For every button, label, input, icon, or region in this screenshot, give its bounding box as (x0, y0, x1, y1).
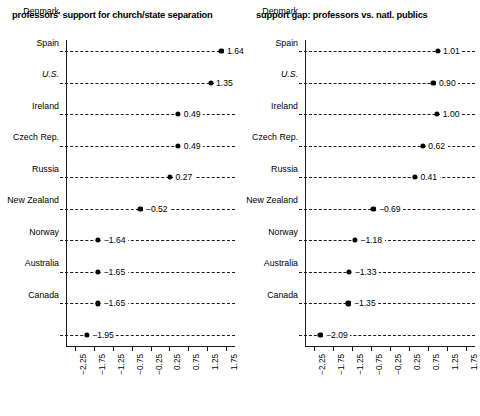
data-point-marker (219, 49, 224, 54)
row-dashed-rule (299, 146, 475, 147)
data-point-marker (95, 301, 100, 306)
data-point-marker (371, 206, 376, 211)
data-point-marker (346, 301, 351, 306)
data-point-marker (347, 269, 352, 274)
x-axis-tick (428, 346, 429, 351)
category-label-czech-rep: Czech Rep. (252, 132, 298, 143)
row-dashed-rule (299, 303, 475, 304)
data-point-value: 0.62 (426, 141, 448, 151)
x-axis-tick-label: −0.75 (136, 354, 145, 375)
data-point-value: 0.49 (181, 141, 203, 151)
data-point-marker (435, 112, 440, 117)
data-point-value: −0.69 (376, 204, 403, 214)
x-axis-tick-label: 1.25 (451, 354, 460, 370)
data-point-value: 0.90 (436, 78, 458, 88)
category-label-spain: Spain (37, 37, 60, 48)
data-point-value: 0.49 (181, 109, 203, 119)
category-label-canada: Canada (28, 290, 59, 301)
row-dashed-rule (299, 177, 475, 178)
data-point-marker (435, 49, 440, 54)
data-point-value: −1.65 (101, 298, 128, 308)
data-point-value: 1.01 (441, 46, 463, 56)
category-label-russia: Russia (271, 164, 298, 175)
data-point-value: −2.09 (323, 330, 350, 340)
category-label-u-s: U.S. (42, 69, 59, 80)
data-point-marker (176, 143, 181, 148)
x-axis-tick (371, 346, 372, 351)
data-point-marker (96, 238, 101, 243)
dot-plot-figure: professors' support for church/state sep… (0, 0, 480, 416)
data-point-marker (208, 80, 213, 85)
row-dashed-rule (60, 146, 235, 147)
plot-area-left: 1.641.350.490.490.27−0.52−1.64−1.65−1.65… (66, 40, 235, 346)
x-axis-tick-label: −0.75 (375, 354, 384, 375)
category-label-u-s: U.S. (281, 69, 298, 80)
data-point-marker (318, 332, 323, 337)
data-point-value: −1.64 (101, 235, 128, 245)
x-axis-tick-label: 0.75 (192, 354, 201, 370)
data-point-marker (431, 80, 436, 85)
row-dashed-rule (60, 272, 235, 273)
data-point-marker (176, 112, 181, 117)
data-point-marker (95, 269, 100, 274)
x-axis-tick (447, 346, 448, 351)
x-axis-tick-label: −1.25 (356, 354, 365, 375)
row-dashed-rule (60, 177, 235, 178)
x-axis-tick (409, 346, 410, 351)
x-axis-tick-label: −0.25 (394, 354, 403, 375)
data-point-value: −1.65 (101, 267, 128, 277)
category-label-norway: Norway (29, 227, 59, 238)
data-point-value: 1.00 (440, 109, 462, 119)
x-axis-tick (226, 346, 227, 351)
x-axis-tick-label: 1.25 (211, 354, 220, 370)
panel-support-gap: support gap: professors vs. natl. public… (240, 0, 480, 416)
category-label-australia: Australia (25, 258, 59, 269)
category-label-ireland: Ireland (271, 100, 298, 111)
category-label-spain: Spain (276, 37, 299, 48)
x-axis-tick-label: 1.75 (470, 354, 479, 370)
category-label-russia: Russia (32, 164, 59, 175)
x-axis-tick-label: −0.25 (155, 354, 164, 375)
row-dashed-rule (299, 272, 475, 273)
category-label-norway: Norway (268, 227, 298, 238)
x-axis-tick-label: 1.75 (230, 354, 239, 370)
data-point-marker (167, 175, 172, 180)
data-point-marker (84, 332, 89, 337)
category-label-ireland: Ireland (32, 100, 59, 111)
data-point-marker (420, 143, 425, 148)
category-label-australia: Australia (264, 258, 298, 269)
category-label-new-zealand: New Zealand (246, 195, 298, 206)
x-axis-tick-label: 0.75 (432, 354, 441, 370)
category-label-denmark: Denmark (262, 6, 298, 17)
x-axis-tick-label: −1.25 (117, 354, 126, 375)
data-point-value: −1.35 (351, 298, 378, 308)
category-label-canada: Canada (267, 290, 298, 301)
data-point-marker (138, 206, 143, 211)
x-axis-tick (132, 346, 133, 351)
x-axis-tick-label: −2.25 (79, 354, 88, 375)
panel-professors-support: professors' support for church/state sep… (0, 0, 240, 416)
y-axis-line-right (305, 40, 306, 346)
data-point-value: −1.95 (90, 330, 117, 340)
x-axis-tick (333, 346, 334, 351)
row-dashed-rule (299, 240, 475, 241)
x-axis-tick (113, 346, 114, 351)
data-point-value: 0.41 (418, 172, 440, 182)
x-axis-tick-label: −1.75 (98, 354, 107, 375)
row-dashed-rule (60, 114, 235, 115)
data-point-marker (412, 175, 417, 180)
x-axis-tick (466, 346, 467, 351)
x-axis-tick (207, 346, 208, 351)
data-point-value: −1.18 (358, 235, 385, 245)
data-point-value: −1.33 (352, 267, 379, 277)
x-axis-tick (151, 346, 152, 351)
x-axis-tick (75, 346, 76, 351)
x-axis-tick (390, 346, 391, 351)
x-axis-tick (352, 346, 353, 351)
x-axis-tick (314, 346, 315, 351)
x-axis-tick-label: 0.25 (173, 354, 182, 370)
x-axis-tick (94, 346, 95, 351)
x-axis-tick (169, 346, 170, 351)
plot-area-right: 1.010.901.000.620.41−0.69−1.18−1.33−1.35… (305, 40, 475, 346)
category-label-denmark: Denmark (23, 6, 59, 17)
